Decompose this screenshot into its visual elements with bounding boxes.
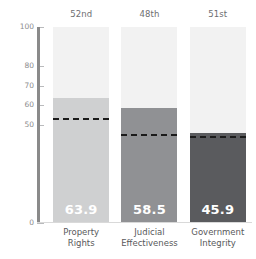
rank-label-row: 52nd 48th 51st <box>47 6 252 22</box>
x-axis-baseline <box>37 222 252 223</box>
rank-label-government-integrity: 51st <box>184 6 252 22</box>
reference-line-government-integrity <box>190 136 246 138</box>
y-tick-label-70: 70 <box>24 81 34 90</box>
y-tick-label-60: 60 <box>24 100 34 109</box>
category-label-property-rights: Property Rights <box>47 227 115 257</box>
bar-value-property-rights: 63.9 <box>53 202 109 217</box>
category-label-judicial-effectiveness: Judicial Effectiveness <box>115 227 183 257</box>
bar-property-rights[interactable]: 63.9 <box>53 98 109 223</box>
category-label-judicial-effectiveness-line2: Effectiveness <box>116 238 182 249</box>
bar-judicial-effectiveness[interactable]: 58.5 <box>121 108 177 223</box>
rule-of-law-bar-chart: 52nd 48th 51st 100 80 70 60 50 0 <box>0 0 256 259</box>
rank-label-property-rights: 52nd <box>47 6 115 22</box>
y-tick-label-0: 0 <box>29 218 34 227</box>
y-tick-label-100: 100 <box>20 22 34 31</box>
reference-line-property-rights <box>53 118 109 120</box>
rank-label-judicial-effectiveness: 48th <box>115 6 183 22</box>
y-tick-label-50: 50 <box>24 120 34 129</box>
y-axis-spine <box>37 27 40 223</box>
category-label-government-integrity-line1: Government <box>185 227 251 238</box>
reference-line-judicial-effectiveness <box>121 134 177 136</box>
y-tick-mark-0 <box>37 223 44 224</box>
bar-value-government-integrity: 45.9 <box>190 202 246 217</box>
category-label-government-integrity: Government Integrity <box>184 227 252 257</box>
bar-column-judicial-effectiveness[interactable]: 58.5 <box>115 27 183 223</box>
plot-area: 63.9 58.5 45.9 <box>47 27 252 223</box>
bar-columns: 63.9 58.5 45.9 <box>47 27 252 223</box>
y-tick-label-80: 80 <box>24 61 34 70</box>
category-label-property-rights-line2: Rights <box>48 238 114 249</box>
category-label-judicial-effectiveness-line1: Judicial <box>116 227 182 238</box>
bar-government-integrity[interactable]: 45.9 <box>190 133 246 223</box>
bar-value-judicial-effectiveness: 58.5 <box>121 202 177 217</box>
category-label-row: Property Rights Judicial Effectiveness G… <box>47 227 252 257</box>
bar-column-government-integrity[interactable]: 45.9 <box>184 27 252 223</box>
category-label-government-integrity-line2: Integrity <box>185 238 251 249</box>
bar-column-property-rights[interactable]: 63.9 <box>47 27 115 223</box>
category-label-property-rights-line1: Property <box>48 227 114 238</box>
